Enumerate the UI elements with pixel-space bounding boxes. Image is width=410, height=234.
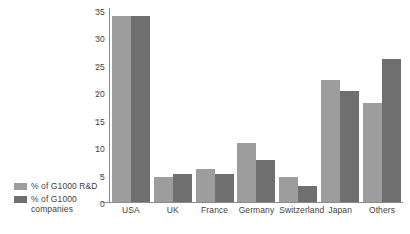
x-axis-labels: USAUKFranceGermanySwitzerlandJapanOthers [110,205,403,221]
y-tick-mark [95,10,99,11]
y-tick-label: 25 [95,62,105,72]
x-axis-label: France [196,205,234,221]
x-axis-label: Japan [321,205,359,221]
y-tick-label: 30 [95,34,105,44]
y-tick-label: 35 [95,7,105,17]
bar-group [279,10,317,202]
legend-item: % of G1000 companies [14,194,106,214]
y-tick-mark [95,147,99,148]
y-tick-label: 10 [95,144,105,154]
legend-swatch [14,183,27,190]
bar [196,169,215,202]
x-axis-label: Germany [237,205,275,221]
bar-group [196,10,234,202]
legend-item: % of G1000 R&D [14,181,106,191]
y-tick-label: 15 [95,117,105,127]
bar [173,174,192,202]
y-tick-mark [95,64,99,65]
bar [382,59,401,202]
x-axis-label: UK [154,205,192,221]
y-tick: 10 [95,138,110,156]
y-tick-mark [95,119,99,120]
bar-groups [110,10,403,202]
bar-group [154,10,192,202]
bar [256,160,275,202]
bar [298,186,317,202]
x-axis-label: Others [363,205,401,221]
bar-group [237,10,275,202]
bar [363,103,382,202]
y-tick-mark [95,37,99,38]
bar [340,91,359,202]
bar-group [321,10,359,202]
bar-chart: 05101520253035 USAUKFranceGermanySwitzer… [0,0,410,234]
x-axis-label: Switzerland [279,205,317,221]
bar [321,80,340,202]
legend-swatch [14,196,27,203]
bar [112,16,131,202]
bar [215,174,234,202]
y-tick-label: 20 [95,89,105,99]
bar [131,16,150,202]
y-tick: 15 [95,111,110,129]
chart-legend: % of G1000 R&D% of G1000 companies [14,181,106,217]
bar [279,177,298,202]
legend-label: % of G1000 R&D [31,181,98,191]
plot-area: 05101520253035 [110,10,403,202]
y-tick: 25 [95,56,110,74]
y-tick: 20 [95,83,110,101]
bar-group [363,10,401,202]
bar [154,177,173,202]
y-tick: 30 [95,28,110,46]
y-tick-mark [95,92,99,93]
y-tick: 35 [95,1,110,19]
bar-group [112,10,150,202]
legend-label: % of G1000 companies [31,194,106,214]
x-axis-line [103,202,403,203]
bar [237,143,256,202]
x-axis-label: USA [112,205,150,221]
y-tick-mark [100,174,104,175]
